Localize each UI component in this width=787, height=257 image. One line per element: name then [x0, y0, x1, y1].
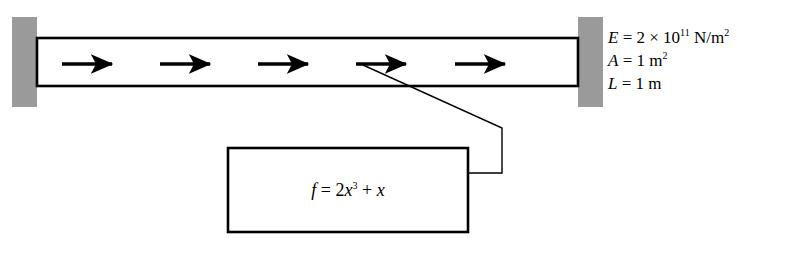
- area-value: 1: [636, 51, 645, 70]
- left-support: [12, 17, 37, 107]
- formula-plus: +: [362, 180, 372, 200]
- youngs-modulus-unit-exponent: 2: [724, 27, 729, 38]
- material-properties: E = 2 × 1011 N/m2 A = 1 m2 L = 1 m: [608, 26, 729, 95]
- formula-term1-variable: x: [345, 180, 353, 200]
- formula-equals: =: [321, 180, 331, 200]
- area-equals: =: [623, 51, 633, 70]
- youngs-modulus-line: E = 2 × 1011 N/m2: [608, 26, 729, 49]
- formula-term2-variable: x: [377, 180, 385, 200]
- bar-element: [37, 38, 578, 86]
- youngs-modulus-coefficient: 2: [636, 28, 645, 47]
- length-unit: m: [648, 74, 661, 93]
- length-symbol: L: [608, 74, 617, 93]
- area-symbol: A: [608, 51, 618, 70]
- formula-lhs: f: [311, 180, 316, 200]
- area-line: A = 1 m2: [608, 49, 729, 72]
- area-unit: m: [649, 51, 662, 70]
- youngs-modulus-unit: N/m: [694, 28, 724, 47]
- youngs-modulus-times: ×: [649, 28, 659, 47]
- load-function-formula: f = 2x3 + x: [228, 148, 468, 232]
- area-unit-exponent: 2: [662, 50, 667, 61]
- youngs-modulus-exponent: 11: [680, 27, 690, 38]
- youngs-modulus-equals: =: [623, 28, 633, 47]
- length-equals: =: [622, 74, 632, 93]
- right-support: [578, 17, 603, 107]
- bar-load-diagram: E = 2 × 1011 N/m2 A = 1 m2 L = 1 m f = 2…: [0, 0, 787, 257]
- length-line: L = 1 m: [608, 72, 729, 95]
- youngs-modulus-base: 10: [663, 28, 680, 47]
- length-value: 1: [636, 74, 645, 93]
- formula-term1-coefficient: 2: [336, 180, 345, 200]
- formula-term1-exponent: 3: [353, 180, 358, 191]
- youngs-modulus-symbol: E: [608, 28, 618, 47]
